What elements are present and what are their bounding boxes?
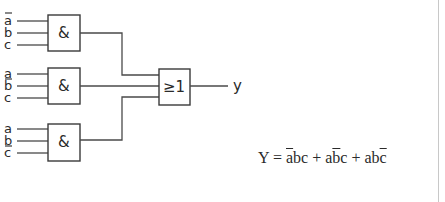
- equals-sign: =: [273, 149, 282, 166]
- and-symbol: &: [58, 24, 70, 42]
- term-1-b: b: [293, 149, 301, 166]
- and-gate-3: & a b c: [4, 97, 159, 161]
- input-label: c: [4, 145, 11, 160]
- page-edge-divider: [438, 0, 439, 202]
- plus-sign: +: [312, 149, 321, 166]
- and-symbol: &: [58, 133, 70, 151]
- plus-sign: +: [351, 149, 360, 166]
- output-label: y: [233, 77, 242, 95]
- and-symbol: &: [58, 77, 70, 95]
- and-gate-2: & a b c: [4, 66, 159, 105]
- input-label: c: [4, 90, 11, 105]
- term-3-b: b: [372, 149, 380, 166]
- and-gate-1: & a b c: [4, 13, 159, 75]
- output-wire: [80, 33, 159, 75]
- term-3-c: c: [380, 149, 387, 166]
- or-symbol: ≥1: [163, 78, 185, 96]
- term-2-c: c: [340, 149, 347, 166]
- term-3-a: a: [365, 149, 372, 166]
- logic-diagram: & a b c & a b c & a b c ≥1 y: [0, 0, 445, 202]
- input-label: c: [4, 37, 11, 52]
- term-1-c: c: [301, 149, 308, 166]
- or-gate: ≥1 y: [159, 69, 242, 105]
- equation-lhs: Y: [258, 149, 269, 166]
- boolean-equation: Y = abc + abc + abc: [258, 149, 387, 167]
- output-wire: [80, 97, 159, 140]
